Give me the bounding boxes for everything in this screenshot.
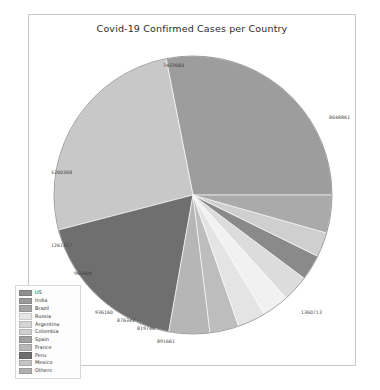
legend-swatch-icon [19,360,32,367]
pie-value-label: 1261317 [51,243,72,248]
legend-item-label: France [35,344,52,351]
legend-swatch-icon [19,290,32,297]
legend-item-label: Colombia [35,328,59,335]
legend-swatch-icon [19,298,32,305]
legend-item-argentina[interactable]: Argentina [19,321,77,328]
pie-value-label: 1360712 [301,310,322,315]
legend-item-label: Argentina [35,321,59,328]
chart-figure: Covid-19 Confirmed Cases per Country 743… [28,14,356,366]
legend-swatch-icon [19,344,32,351]
legend-swatch-icon [19,336,32,343]
legend-item-label: Peru [35,352,46,359]
pie-value-label: 891661 [157,339,175,344]
pie-value-label: 936160 [95,310,113,315]
legend-item-russia[interactable]: Russia [19,313,77,320]
legend-swatch-icon [19,368,32,375]
legend-item-colombia[interactable]: Colombia [19,328,77,335]
legend-item-brazil[interactable]: Brazil [19,305,77,312]
legend-item-label: India [35,297,47,304]
legend-item-label: Brazil [35,305,49,312]
chart-title: Covid-19 Confirmed Cases per Country [29,23,355,34]
chart-legend: USIndiaBrazilRussiaArgentinaColombiaSpai… [15,285,81,379]
legend-item-mexico[interactable]: Mexico [19,359,77,366]
legend-item-france[interactable]: France [19,344,77,351]
legend-item-label: Others [35,367,52,374]
pie-value-label: 5200308 [51,170,72,175]
pie-slices [54,56,332,334]
legend-item-label: Mexico [35,359,52,366]
legend-item-peru[interactable]: Peru [19,352,77,359]
legend-swatch-icon [19,305,32,312]
legend-swatch-icon [19,352,32,359]
legend-item-india[interactable]: India [19,297,77,304]
legend-item-label: Russia [35,313,51,320]
legend-rows: USIndiaBrazilRussiaArgentinaColombiaSpai… [19,289,77,374]
legend-swatch-icon [19,313,32,320]
pie-value-label: 876342 [117,318,135,323]
pie-value-label: 7432680 [163,63,184,68]
legend-item-spain[interactable]: Spain [19,336,77,343]
pie-chart-area [51,53,335,337]
pie-value-label: 8048861 [329,115,350,120]
legend-swatch-icon [19,329,32,336]
pie-slice-us [166,56,332,195]
legend-item-others[interactable]: Others [19,367,77,374]
legend-item-label: US [35,289,42,296]
pie-value-label: 965609 [74,271,92,276]
legend-item-label: Spain [35,336,49,343]
legend-swatch-icon [19,321,32,328]
pie-value-label: 819740 [137,326,155,331]
legend-item-us[interactable]: US [19,289,77,296]
pie-svg [51,53,335,337]
